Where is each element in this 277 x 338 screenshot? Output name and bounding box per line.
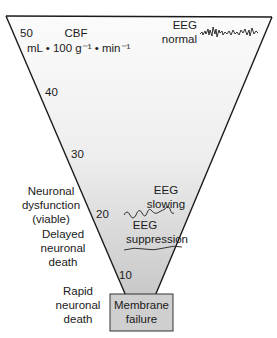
dysfunction-line2: dysfunction [22, 199, 80, 211]
tick-30: 30 [71, 148, 84, 160]
membrane-failure-line2: failure [126, 313, 157, 325]
rapid-line2: neuronal [56, 299, 101, 311]
eeg-slowing-line1: EEG [154, 184, 178, 196]
dysfunction-line1: Neuronal [28, 185, 75, 197]
delayed-line3: death [49, 256, 78, 268]
membrane-failure-line1: Membrane [114, 299, 169, 311]
delayed-line1: Delayed [42, 228, 84, 240]
eeg-normal-line2: normal [162, 33, 197, 45]
funnel-top-edge [6, 16, 272, 17]
eeg-suppression-line1: EEG [133, 219, 157, 231]
delayed-line2: neuronal [41, 242, 86, 254]
tick-10: 10 [119, 269, 132, 281]
eeg-normal-line1: EEG [173, 19, 197, 31]
eeg-suppression-line2: suppression [126, 233, 188, 245]
dysfunction-line3: (viable) [32, 213, 70, 225]
cbf-funnel [6, 16, 272, 296]
rapid-line3: death [64, 313, 93, 325]
cbf-threshold-diagram: Membrane failure 50 CBF mL • 100 g⁻¹ • m… [0, 0, 277, 338]
axis-units: mL • 100 g⁻¹ • min⁻¹ [27, 42, 131, 54]
axis-title: CBF [65, 27, 88, 39]
rapid-line1: Rapid [63, 285, 93, 297]
tick-20: 20 [96, 208, 109, 220]
tick-40: 40 [45, 86, 58, 98]
tick-50: 50 [20, 27, 33, 39]
